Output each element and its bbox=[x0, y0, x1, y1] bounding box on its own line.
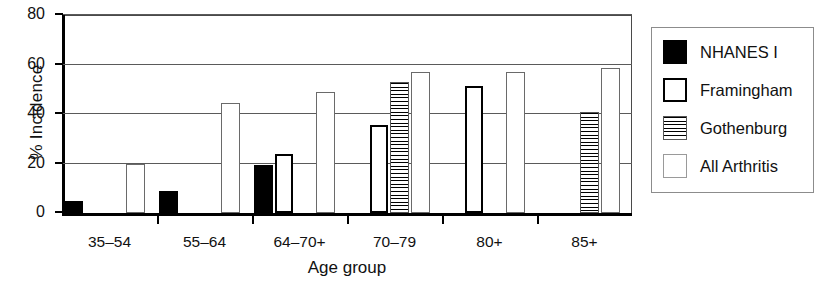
bar bbox=[601, 68, 620, 213]
y-axis-tick: 60 bbox=[55, 63, 63, 65]
y-axis-tick-label: 80 bbox=[27, 5, 45, 23]
plot-area: 020406080 35–5455–6464–70+70–7980+85+ bbox=[62, 15, 632, 213]
bar bbox=[580, 112, 599, 213]
bar bbox=[275, 154, 294, 213]
bar bbox=[506, 72, 525, 213]
legend-label: All Arthritis bbox=[700, 157, 778, 176]
bar bbox=[316, 92, 335, 213]
gridline bbox=[62, 64, 632, 65]
legend-swatch-gothenburg bbox=[663, 116, 687, 140]
legend-swatch-nhanes bbox=[663, 40, 687, 64]
x-axis-tick-label: 70–79 bbox=[373, 233, 416, 251]
bar bbox=[390, 82, 409, 213]
bar bbox=[64, 201, 83, 213]
legend-item-nhanes: NHANES I bbox=[663, 39, 778, 65]
x-axis-tick-label: 80+ bbox=[476, 233, 502, 251]
y-axis-tick: 40 bbox=[55, 112, 63, 114]
chart-legend: NHANES IFraminghamGothenburgAll Arthriti… bbox=[651, 27, 814, 193]
bar-chart-figure: % Incidence 020406080 35–5455–6464–70+70… bbox=[0, 0, 821, 290]
y-axis-tick-label: 60 bbox=[27, 55, 45, 73]
x-axis-tick bbox=[252, 215, 254, 224]
x-axis-title: Age group bbox=[62, 258, 632, 278]
y-axis-tick-label: 0 bbox=[36, 203, 45, 221]
legend-swatch-allarthritis bbox=[663, 154, 687, 178]
y-axis-tick: 0 bbox=[55, 211, 63, 213]
legend-label: Gothenburg bbox=[700, 119, 787, 138]
x-axis-tick bbox=[537, 215, 539, 224]
bar bbox=[411, 72, 430, 213]
bar bbox=[221, 103, 240, 213]
gridline bbox=[62, 163, 632, 164]
x-axis-tick bbox=[157, 215, 159, 224]
plot-border-right bbox=[631, 15, 632, 213]
y-axis-tick: 80 bbox=[55, 13, 63, 15]
gridline bbox=[62, 113, 632, 114]
bar bbox=[370, 125, 389, 213]
x-axis-tick bbox=[442, 215, 444, 224]
x-axis-tick-label: 55–64 bbox=[183, 233, 226, 251]
bar bbox=[126, 164, 145, 213]
x-axis-tick-label: 64–70+ bbox=[273, 233, 325, 251]
bar bbox=[254, 165, 273, 213]
gridline bbox=[62, 14, 632, 15]
plot-border-top bbox=[62, 15, 632, 16]
legend-item-gothenburg: Gothenburg bbox=[663, 115, 787, 141]
bar bbox=[465, 86, 484, 213]
legend-label: NHANES I bbox=[700, 43, 778, 62]
legend-label: Framingham bbox=[700, 81, 793, 100]
legend-item-allarthritis: All Arthritis bbox=[663, 153, 778, 179]
bar bbox=[159, 191, 178, 213]
legend-swatch-framingham bbox=[663, 78, 687, 102]
x-axis-tick-label: 85+ bbox=[571, 233, 597, 251]
y-axis-tick: 20 bbox=[55, 162, 63, 164]
y-axis-tick-label: 40 bbox=[27, 104, 45, 122]
legend-item-framingham: Framingham bbox=[663, 77, 793, 103]
x-axis-tick-label: 35–54 bbox=[88, 233, 131, 251]
x-axis-tick bbox=[347, 215, 349, 224]
y-axis-tick-label: 20 bbox=[27, 154, 45, 172]
y-axis-line bbox=[62, 15, 65, 213]
